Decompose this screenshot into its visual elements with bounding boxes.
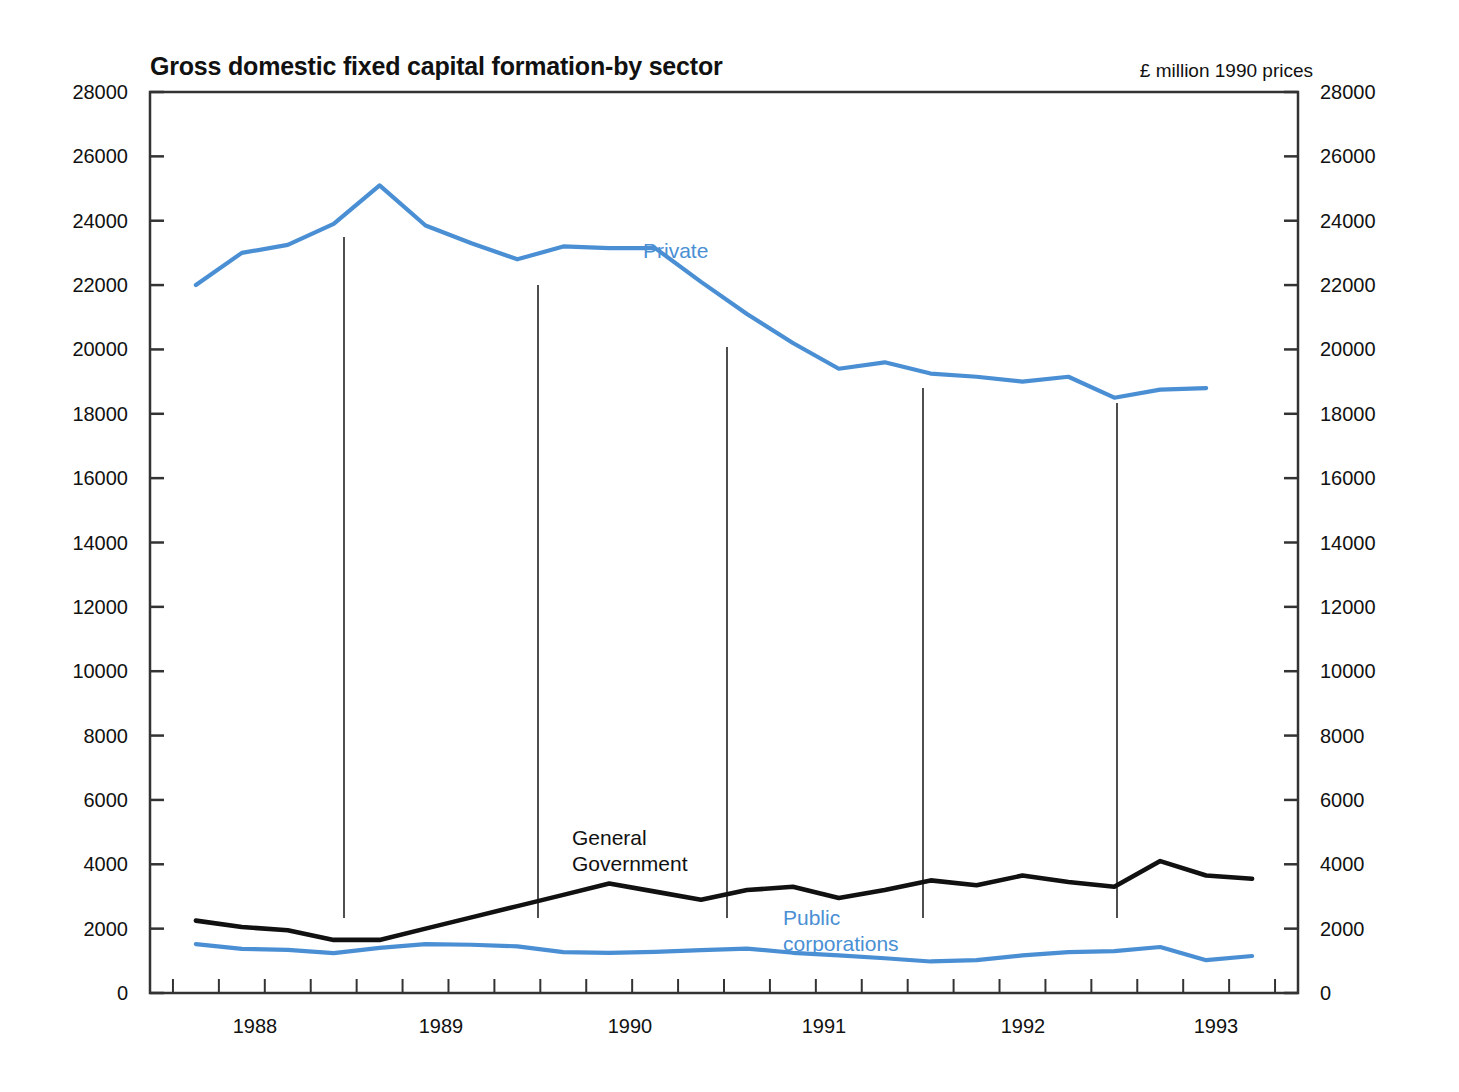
y-axis-label-right: 0	[1320, 982, 1331, 1004]
y-axis-label-left: 0	[117, 982, 128, 1004]
y-axis-label-right: 26000	[1320, 145, 1376, 167]
y-axis-label-left: 6000	[84, 789, 129, 811]
y-axis-label-left: 14000	[72, 532, 128, 554]
x-axis-year-labels: 198819891990199119921993	[233, 1015, 1239, 1037]
y-axis-label-right: 18000	[1320, 403, 1376, 425]
y-axis-label-left: 20000	[72, 338, 128, 360]
chart-figure: Gross domestic fixed capital formation-b…	[0, 0, 1459, 1092]
y-axis-label-left: 24000	[72, 210, 128, 232]
series-annotation-public: Public	[783, 906, 840, 929]
y-axis-label-right: 16000	[1320, 467, 1376, 489]
x-axis-year-label: 1988	[233, 1015, 278, 1037]
y-axis-right-labels: 0200040006000800010000120001400016000180…	[1320, 81, 1376, 1004]
y-axis-label-right: 22000	[1320, 274, 1376, 296]
y-axis-label-right: 10000	[1320, 660, 1376, 682]
y-axis-label-right: 12000	[1320, 596, 1376, 618]
y-axis-label-right: 8000	[1320, 725, 1365, 747]
y-axis-label-left: 22000	[72, 274, 128, 296]
x-axis-year-label: 1993	[1194, 1015, 1239, 1037]
y-axis-label-left: 28000	[72, 81, 128, 103]
y-axis-left-labels: 0200040006000800010000120001400016000180…	[72, 81, 128, 1004]
series-annotation-government: Government	[572, 852, 688, 875]
y-axis-label-right: 20000	[1320, 338, 1376, 360]
y-axis-label-right: 2000	[1320, 918, 1365, 940]
y-axis-label-left: 16000	[72, 467, 128, 489]
series-annotation-private: Private	[643, 239, 708, 262]
y-axis-label-left: 8000	[84, 725, 129, 747]
y-axis-label-left: 4000	[84, 853, 129, 875]
y-axis-label-right: 4000	[1320, 853, 1365, 875]
x-axis-year-label: 1990	[608, 1015, 653, 1037]
y-axis-label-right: 6000	[1320, 789, 1365, 811]
y-axis-label-right: 24000	[1320, 210, 1376, 232]
x-axis-year-label: 1991	[802, 1015, 847, 1037]
y-axis-label-left: 26000	[72, 145, 128, 167]
y-axis-label-right: 28000	[1320, 81, 1376, 103]
x-axis-year-label: 1989	[419, 1015, 464, 1037]
series-annotation-corporations: corporations	[783, 932, 899, 955]
x-axis-year-label: 1992	[1001, 1015, 1046, 1037]
y-axis-label-left: 10000	[72, 660, 128, 682]
line-chart-svg: 0200040006000800010000120001400016000180…	[0, 0, 1459, 1092]
y-axis-label-left: 18000	[72, 403, 128, 425]
y-axis-label-left: 12000	[72, 596, 128, 618]
y-axis-label-left: 2000	[84, 918, 129, 940]
series-annotation-general: General	[572, 826, 647, 849]
y-axis-label-right: 14000	[1320, 532, 1376, 554]
